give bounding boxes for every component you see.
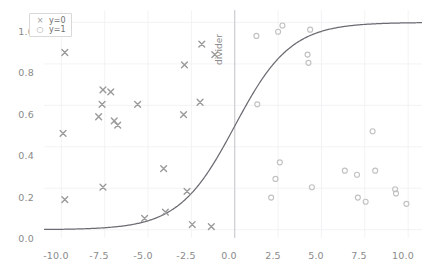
legend-marker-x-icon: × [33,16,47,25]
data-point [142,215,148,221]
data-point [354,172,359,177]
data-point [373,168,378,173]
data-point [189,222,195,228]
data-point [363,199,368,204]
x-tick-label-1: -7.5 [78,250,120,261]
data-point [161,166,167,172]
legend-label-y0: y=0 [47,16,66,25]
x-tick-label-5: 2.5 [252,250,294,261]
x-tick-label-6: 5.0 [295,250,337,261]
plot-area [44,10,422,238]
x-tick-label-7: 7.5 [338,250,380,261]
data-point [342,168,347,173]
divider-annotation: divider [214,34,224,65]
data-point [199,41,205,47]
y-tick-label-0: 0.0 [4,233,34,244]
data-point [181,112,187,118]
x-tick-label-4: 0.0 [208,250,250,261]
data-point [96,114,102,120]
data-point [273,176,278,181]
legend-item-y0: × y=0 [33,16,66,25]
x-tick-label-8: 10.0 [382,250,424,261]
legend-item-y1: ○ y=1 [33,25,66,34]
chart-legend: × y=0 ○ y=1 [29,13,72,37]
data-point [115,122,121,128]
y-tick-label-4: 0.8 [4,67,34,78]
sigmoid-curve [44,23,422,230]
y-tick-label-1: 0.2 [4,192,34,203]
data-point [135,101,141,107]
scatter-plot-svg [44,10,422,238]
chart-figure: 0.0 0.2 0.4 0.6 0.8 1.0 -10.0 -7.5 -5.0 … [0,0,438,276]
data-point [269,195,274,200]
y-tick-label-3: 0.6 [4,109,34,120]
data-point [370,129,375,134]
data-point [309,185,314,190]
data-point [184,188,190,194]
data-point [255,102,260,107]
data-point [254,33,259,38]
data-point [280,23,285,28]
x-tick-label-0: -10.0 [35,250,77,261]
data-point [208,224,214,230]
legend-marker-circle-icon: ○ [33,25,47,34]
data-point [306,60,311,65]
data-point [108,89,114,95]
y-tick-label-2: 0.4 [4,150,34,161]
data-point [182,62,188,68]
x-tick-label-2: -5.0 [122,250,164,261]
data-point [355,195,360,200]
series-y=0 [60,41,218,229]
data-point [305,52,310,57]
series-y=1 [254,23,409,206]
data-point [99,101,105,107]
data-point [308,27,313,32]
data-point [197,99,203,105]
data-point [62,197,68,203]
data-point [62,50,68,56]
legend-label-y1: y=1 [47,25,66,34]
x-tick-label-3: -2.5 [165,250,207,261]
